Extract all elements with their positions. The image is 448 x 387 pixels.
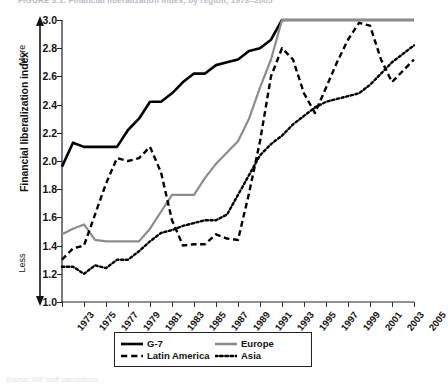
y-tick-mark (57, 48, 62, 49)
y-tick-mark (57, 161, 62, 162)
x-tick-label: 1975 (97, 310, 118, 333)
x-tick-label: 1987 (229, 310, 250, 333)
legend-swatch-solid-icon (121, 339, 143, 349)
legend-item-latin-america[interactable]: Latin America (121, 350, 211, 361)
x-tick-mark (282, 302, 283, 307)
x-tick-mark (326, 302, 327, 307)
legend-item-europe[interactable]: Europe (215, 338, 305, 349)
y-tick-label: 1.4 (42, 240, 57, 251)
y-tick-label: 2.2 (42, 128, 57, 139)
x-tick-mark (106, 302, 107, 307)
x-tick-label: 1997 (339, 310, 360, 333)
x-tick-label: 1979 (141, 310, 162, 333)
x-tick-mark (348, 302, 349, 307)
x-tick-label: 2003 (405, 310, 426, 333)
legend-swatch-dashed-icon (121, 351, 143, 361)
x-tick-label: 1977 (119, 310, 140, 333)
x-tick-mark (414, 302, 415, 307)
x-tick-label: 1985 (207, 310, 228, 333)
y-tick-mark (57, 246, 62, 247)
x-tick-label: 1983 (185, 310, 206, 333)
x-tick-mark (370, 302, 371, 307)
legend-item-asia[interactable]: Asia (215, 350, 305, 361)
figure-title: FIGURE 3.1. Financial liberalization ind… (18, 0, 418, 6)
y-tick-mark (57, 20, 62, 21)
y-tick-label: 3.0 (42, 15, 57, 26)
legend-label: Asia (241, 350, 261, 361)
x-tick-label: 1995 (317, 310, 338, 333)
x-tick-mark (238, 302, 239, 307)
y-tick-mark (57, 274, 62, 275)
y-tick-label: 1.8 (42, 184, 57, 195)
plot-area: 1.01.21.41.61.82.02.22.42.62.83.0 197319… (62, 20, 414, 302)
y-axis-low-annotation: Less (17, 246, 27, 280)
x-tick-mark (128, 302, 129, 307)
y-tick-mark (57, 217, 62, 218)
x-tick-label: 1973 (75, 310, 96, 333)
legend-label: G-7 (147, 338, 163, 349)
x-tick-mark (260, 302, 261, 307)
x-tick-label: 1991 (273, 310, 294, 333)
series-line-g-7 (62, 20, 414, 167)
legend-label: Latin America (147, 350, 209, 361)
y-tick-label: 2.0 (42, 156, 57, 167)
x-tick-mark (62, 302, 63, 307)
legend-swatch-solid-icon (215, 339, 237, 349)
x-tick-mark (194, 302, 195, 307)
y-tick-label: 2.6 (42, 71, 57, 82)
x-tick-label: 2005 (427, 310, 448, 333)
x-tick-mark (84, 302, 85, 307)
figure-caption: Source: IMF staff calculations. (6, 376, 246, 386)
chart-legend: G-7EuropeLatin AmericaAsia (114, 332, 312, 367)
x-tick-mark (392, 302, 393, 307)
x-tick-mark (304, 302, 305, 307)
legend-item-g-7[interactable]: G-7 (121, 338, 211, 349)
x-tick-mark (172, 302, 173, 307)
y-tick-mark (57, 189, 62, 190)
x-tick-label: 1981 (163, 310, 184, 333)
y-tick-label: 1.0 (42, 297, 57, 308)
chart-canvas (62, 20, 414, 302)
x-tick-label: 2001 (383, 310, 404, 333)
y-tick-label: 1.6 (42, 212, 57, 223)
x-tick-label: 1993 (295, 310, 316, 333)
y-tick-mark (57, 105, 62, 106)
y-tick-mark (57, 76, 62, 77)
y-tick-label: 2.8 (42, 43, 57, 54)
x-tick-label: 1989 (251, 310, 272, 333)
y-tick-mark (57, 133, 62, 134)
series-layer (62, 20, 414, 274)
series-line-europe (62, 20, 414, 241)
y-tick-label: 2.4 (42, 99, 57, 110)
y-axis-high-annotation: More (17, 38, 27, 72)
legend-swatch-dotted-icon (215, 351, 237, 361)
x-tick-label: 1999 (361, 310, 382, 333)
y-tick-label: 1.2 (42, 269, 57, 280)
x-tick-mark (150, 302, 151, 307)
legend-label: Europe (241, 338, 274, 349)
x-tick-mark (216, 302, 217, 307)
